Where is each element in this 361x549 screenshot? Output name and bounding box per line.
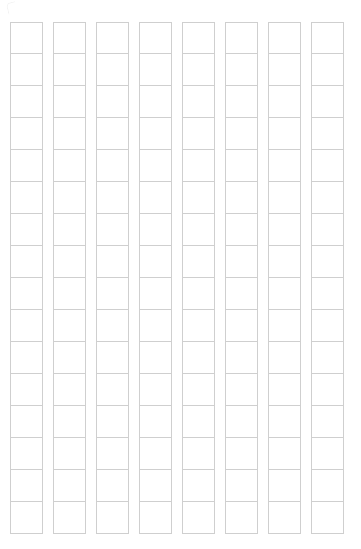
grid-cell[interactable] bbox=[268, 310, 301, 342]
grid-cell[interactable] bbox=[268, 214, 301, 246]
grid-cell[interactable] bbox=[53, 406, 86, 438]
grid-cell[interactable] bbox=[225, 278, 258, 310]
grid-cell[interactable] bbox=[311, 406, 344, 438]
grid-cell[interactable] bbox=[225, 438, 258, 470]
grid-cell[interactable] bbox=[96, 310, 129, 342]
grid-cell[interactable] bbox=[225, 86, 258, 118]
grid-cell[interactable] bbox=[225, 22, 258, 54]
grid-cell[interactable] bbox=[311, 86, 344, 118]
grid-cell[interactable] bbox=[10, 438, 43, 470]
grid-cell[interactable] bbox=[96, 214, 129, 246]
grid-cell[interactable] bbox=[311, 342, 344, 374]
grid-cell[interactable] bbox=[311, 214, 344, 246]
grid-cell[interactable] bbox=[139, 502, 172, 534]
grid-cell[interactable] bbox=[139, 438, 172, 470]
grid-cell[interactable] bbox=[53, 214, 86, 246]
grid-cell[interactable] bbox=[10, 470, 43, 502]
grid-cell[interactable] bbox=[311, 470, 344, 502]
grid-cell[interactable] bbox=[225, 310, 258, 342]
grid-cell[interactable] bbox=[225, 502, 258, 534]
grid-cell[interactable] bbox=[53, 374, 86, 406]
grid-cell[interactable] bbox=[182, 54, 215, 86]
grid-cell[interactable] bbox=[182, 22, 215, 54]
grid-cell[interactable] bbox=[225, 246, 258, 278]
grid-cell[interactable] bbox=[96, 470, 129, 502]
grid-cell[interactable] bbox=[225, 214, 258, 246]
grid-cell[interactable] bbox=[139, 406, 172, 438]
grid-cell[interactable] bbox=[96, 278, 129, 310]
grid-cell[interactable] bbox=[268, 22, 301, 54]
grid-cell[interactable] bbox=[268, 374, 301, 406]
grid-cell[interactable] bbox=[96, 502, 129, 534]
grid-cell[interactable] bbox=[311, 54, 344, 86]
grid-cell[interactable] bbox=[139, 54, 172, 86]
grid-cell[interactable] bbox=[225, 150, 258, 182]
grid-cell[interactable] bbox=[53, 502, 86, 534]
grid-cell[interactable] bbox=[139, 150, 172, 182]
grid-cell[interactable] bbox=[53, 118, 86, 150]
grid-cell[interactable] bbox=[10, 54, 43, 86]
grid-cell[interactable] bbox=[139, 118, 172, 150]
grid-cell[interactable] bbox=[53, 22, 86, 54]
grid-cell[interactable] bbox=[182, 374, 215, 406]
grid-cell[interactable] bbox=[96, 342, 129, 374]
grid-cell[interactable] bbox=[268, 278, 301, 310]
grid-cell[interactable] bbox=[96, 406, 129, 438]
grid-cell[interactable] bbox=[268, 182, 301, 214]
grid-cell[interactable] bbox=[139, 342, 172, 374]
grid-cell[interactable] bbox=[96, 182, 129, 214]
grid-cell[interactable] bbox=[268, 54, 301, 86]
grid-cell[interactable] bbox=[182, 214, 215, 246]
grid-cell[interactable] bbox=[53, 54, 86, 86]
grid-cell[interactable] bbox=[10, 342, 43, 374]
grid-cell[interactable] bbox=[53, 470, 86, 502]
grid-cell[interactable] bbox=[311, 150, 344, 182]
grid-cell[interactable] bbox=[268, 342, 301, 374]
grid-cell[interactable] bbox=[268, 86, 301, 118]
grid-cell[interactable] bbox=[53, 182, 86, 214]
grid-cell[interactable] bbox=[139, 310, 172, 342]
grid-cell[interactable] bbox=[182, 86, 215, 118]
grid-cell[interactable] bbox=[182, 502, 215, 534]
grid-cell[interactable] bbox=[139, 22, 172, 54]
grid-cell[interactable] bbox=[268, 150, 301, 182]
grid-cell[interactable] bbox=[10, 278, 43, 310]
grid-cell[interactable] bbox=[182, 246, 215, 278]
grid-cell[interactable] bbox=[182, 118, 215, 150]
grid-cell[interactable] bbox=[225, 406, 258, 438]
grid-cell[interactable] bbox=[10, 502, 43, 534]
grid-cell[interactable] bbox=[96, 438, 129, 470]
grid-cell[interactable] bbox=[53, 246, 86, 278]
grid-cell[interactable] bbox=[139, 246, 172, 278]
grid-cell[interactable] bbox=[311, 374, 344, 406]
grid-cell[interactable] bbox=[10, 86, 43, 118]
grid-cell[interactable] bbox=[139, 182, 172, 214]
grid-cell[interactable] bbox=[96, 374, 129, 406]
grid-cell[interactable] bbox=[139, 86, 172, 118]
grid-cell[interactable] bbox=[311, 246, 344, 278]
grid-cell[interactable] bbox=[182, 470, 215, 502]
grid-cell[interactable] bbox=[311, 22, 344, 54]
grid-cell[interactable] bbox=[10, 214, 43, 246]
grid-cell[interactable] bbox=[311, 118, 344, 150]
grid-cell[interactable] bbox=[10, 118, 43, 150]
grid-cell[interactable] bbox=[268, 470, 301, 502]
grid-cell[interactable] bbox=[225, 54, 258, 86]
grid-cell[interactable] bbox=[182, 342, 215, 374]
grid-cell[interactable] bbox=[225, 118, 258, 150]
grid-cell[interactable] bbox=[10, 182, 43, 214]
grid-cell[interactable] bbox=[311, 278, 344, 310]
grid-cell[interactable] bbox=[53, 86, 86, 118]
grid-cell[interactable] bbox=[96, 246, 129, 278]
grid-cell[interactable] bbox=[10, 246, 43, 278]
grid-cell[interactable] bbox=[311, 438, 344, 470]
grid-cell[interactable] bbox=[225, 374, 258, 406]
grid-cell[interactable] bbox=[10, 374, 43, 406]
grid-cell[interactable] bbox=[182, 438, 215, 470]
grid-cell[interactable] bbox=[96, 150, 129, 182]
grid-cell[interactable] bbox=[268, 502, 301, 534]
grid-cell[interactable] bbox=[53, 438, 86, 470]
grid-cell[interactable] bbox=[96, 54, 129, 86]
grid-cell[interactable] bbox=[96, 22, 129, 54]
grid-cell[interactable] bbox=[139, 278, 172, 310]
